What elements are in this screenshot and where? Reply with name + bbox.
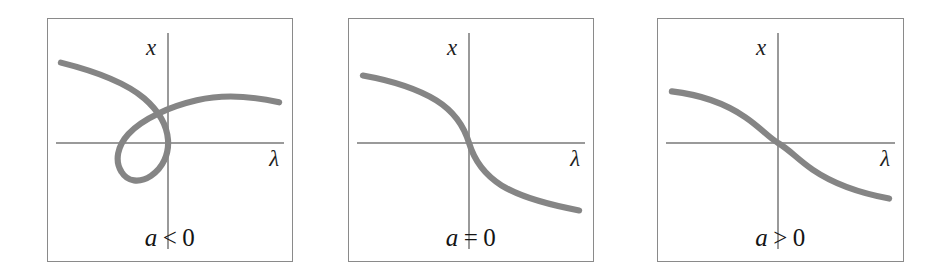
equilibrium-curve [61,63,279,181]
caption-symbol: a [755,224,768,251]
panel-caption: a<0 [48,224,292,252]
caption-relation: > [773,224,788,251]
caption-value: 0 [182,224,195,251]
bifurcation-panel-a-positive: x λ a>0 [657,18,904,262]
caption-value: 0 [793,224,806,251]
x-axis-label: λ [879,146,890,171]
bifurcation-figure: x λ a<0 x λ a=0 x λ a>0 [0,0,947,277]
caption-relation: < [163,224,178,251]
equilibrium-curve [672,91,889,198]
caption-symbol: a [145,224,158,251]
panel-caption: a=0 [349,224,593,252]
y-axis-label: x [755,35,766,60]
bifurcation-panel-a-negative: x λ a<0 [47,18,293,262]
panel-caption: a>0 [658,224,903,252]
caption-value: 0 [483,224,496,251]
caption-symbol: a [446,224,459,251]
y-axis-label: x [446,35,457,60]
bifurcation-panel-a-zero: x λ a=0 [348,18,594,262]
y-axis-label: x [145,35,156,60]
caption-relation: = [464,224,479,251]
x-axis-label: λ [569,146,580,171]
x-axis-label: λ [268,146,279,171]
